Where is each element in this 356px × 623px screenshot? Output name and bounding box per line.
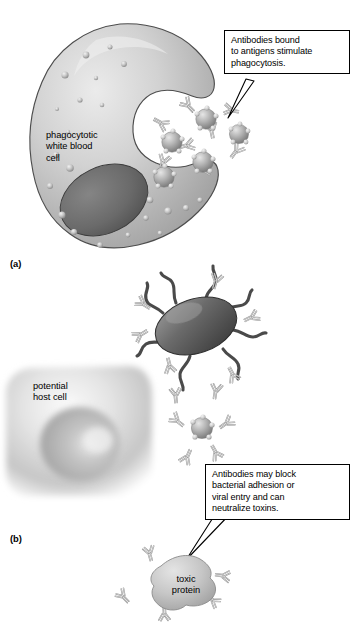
free-antibody-cluster-b [168,383,236,465]
toxic-protein-label-line-1: toxic [156,574,216,585]
phagocyte-label-line-2: white blood [46,141,98,152]
callout-box-b: Antibodies may block bacterial adhesion … [205,464,350,520]
host-cell-label-line-1: potential [33,381,68,392]
antigen-particle [161,129,185,154]
host-cell-label: potential host cell [33,381,68,404]
antibody [242,309,260,326]
phagocyte-label-line-1: phagocytotic [46,130,98,141]
bacterium-body [147,287,244,365]
callout-a-line-2: to antigens stimulate [231,46,344,57]
diagram-canvas [0,0,356,623]
callout-a-line-3: phagocytosis. [231,58,344,69]
callout-leader-b [186,513,230,560]
antibody [209,383,223,399]
antibody [162,357,177,374]
antibody [227,142,246,161]
host-cell-label-line-2: host cell [33,392,68,403]
antibody [215,570,230,583]
callout-b-line-3: viral entry and can [212,492,344,503]
antibody [217,415,236,433]
antibody [142,545,157,562]
antigen-particle [229,122,251,145]
antibody [168,411,187,429]
antigen-particle [190,414,214,439]
toxic-protein-label-line-2: protein [156,585,216,596]
host-cell-nucleus-highlight [83,427,113,453]
phagocyte-label: phagocytotic white blood cell [46,130,98,164]
callout-b-line-4: neutralize toxins. [212,503,344,514]
host-cell-group [6,366,152,496]
antibody [151,114,170,132]
panel-label-b: (b) [10,533,22,544]
antigen-particle [192,149,216,174]
phagocyte-label-line-3: cell [46,153,98,164]
antibody [114,587,132,605]
antigen-particle [195,106,219,131]
antibody-function-figure: Antibodies bound to antigens stimulate p… [0,0,356,623]
callout-b-line-1: Antibodies may block [212,469,344,480]
bacterium-group [131,266,266,390]
callout-b-line-2: bacterial adhesion or [212,480,344,491]
antibody [178,447,195,465]
callout-leader-a [228,79,254,118]
panel-label-a: (a) [10,258,21,269]
antibody [169,388,182,404]
toxic-protein-label: toxic protein [156,574,216,597]
callout-a-line-1: Antibodies bound [231,35,344,46]
antibody [207,443,225,462]
callout-box-a: Antibodies bound to antigens stimulate p… [224,30,350,74]
antibody [131,325,150,343]
